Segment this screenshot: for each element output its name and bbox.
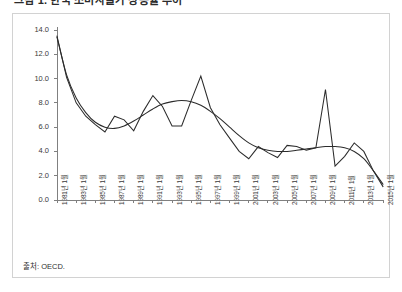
- actual-line-series: [57, 36, 383, 187]
- page-title: 그림 1. 한국 소비자물가 상승률 추이: [14, 0, 183, 7]
- source-note: 출처: OECD.: [23, 260, 65, 271]
- chart-plot-area: 14.012.010.08.06.04.02.00.0 1981년 1월1983…: [13, 14, 389, 257]
- figure-panel: 14.012.010.08.06.04.02.00.0 1981년 1월1983…: [12, 13, 390, 278]
- line-chart-canvas: [13, 14, 389, 257]
- figure-title-strip: 그림 1. 한국 소비자물가 상승률 추이: [0, 0, 402, 11]
